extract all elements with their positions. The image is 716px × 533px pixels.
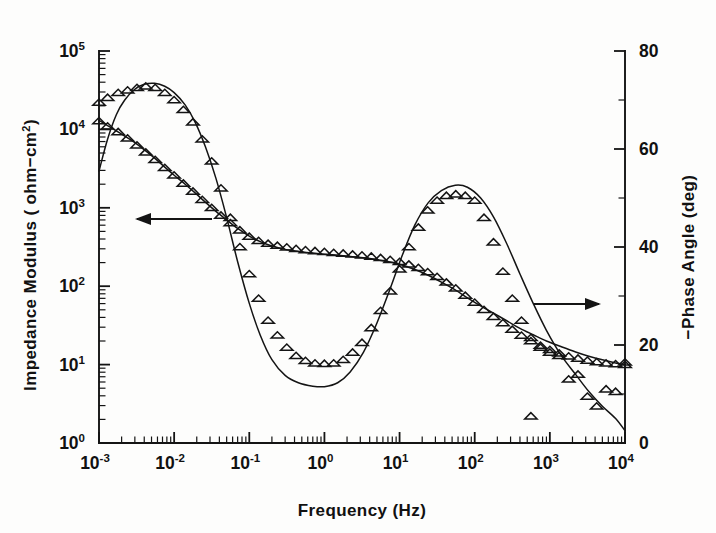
bode-plot-svg: 10-310-210-11001011021031041001011021031… — [0, 0, 716, 533]
bode-plot-figure: 10-310-210-11001011021031041001011021031… — [0, 0, 716, 533]
y-right-tick-label: 40 — [639, 237, 659, 257]
y-right-tick-label: 60 — [639, 139, 659, 159]
y-right-tick-label: 80 — [639, 41, 659, 61]
y-right-tick-label: 0 — [639, 433, 649, 453]
svg-text:Impedance Modulus ( ohm−cm2): Impedance Modulus ( ohm−cm2) — [20, 119, 40, 391]
y-right-tick-label: 20 — [639, 335, 659, 355]
y-left-axis-title: Impedance Modulus ( ohm−cm2) — [20, 119, 40, 391]
x-axis-title: Frequency (Hz) — [298, 501, 426, 520]
y-right-axis-title: −Phase Angle (deg) — [679, 175, 698, 340]
svg-text:−Phase Angle (deg): −Phase Angle (deg) — [679, 175, 698, 340]
